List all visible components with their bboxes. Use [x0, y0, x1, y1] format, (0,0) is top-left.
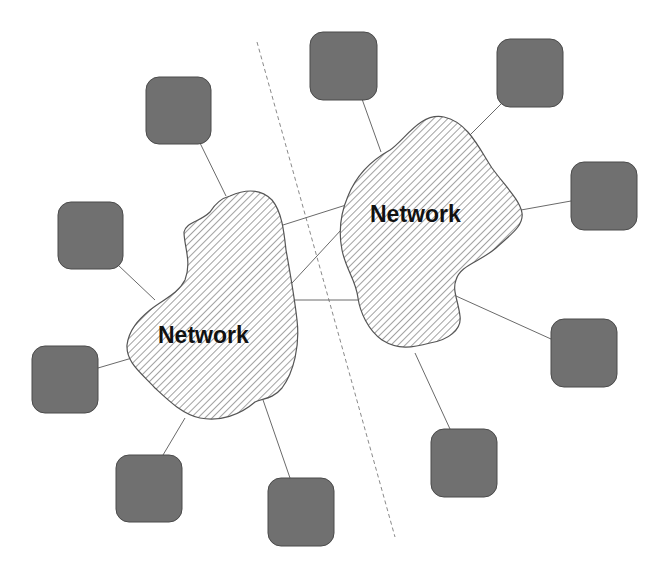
link-right-5 [415, 353, 450, 429]
link-left-2 [118, 265, 155, 300]
link-left-3 [98, 358, 132, 368]
link-right-2 [470, 104, 501, 135]
node-right-4[interactable] [551, 319, 617, 387]
link-left-5 [262, 397, 290, 478]
node-right-1[interactable] [310, 32, 377, 100]
left-network-cloud [127, 191, 298, 419]
link-left-1 [200, 143, 226, 196]
inter-link-1 [283, 205, 346, 225]
node-right-2[interactable] [497, 39, 563, 107]
node-right-3[interactable] [571, 162, 637, 230]
node-left-2[interactable] [58, 202, 123, 269]
nodes [32, 32, 637, 546]
link-right-3 [521, 201, 571, 210]
right-network-cloud [340, 116, 522, 347]
network-diagram: Network Network [0, 0, 662, 569]
right-network-label: Network [370, 201, 461, 227]
node-left-4[interactable] [116, 455, 182, 522]
left-network-label: Network [158, 322, 249, 348]
node-left-1[interactable] [146, 77, 211, 144]
links [98, 99, 571, 478]
link-right-1 [362, 99, 381, 152]
link-left-4 [163, 418, 185, 455]
node-left-5[interactable] [268, 478, 334, 546]
node-right-5[interactable] [431, 429, 497, 497]
link-right-4 [456, 296, 551, 339]
node-left-3[interactable] [32, 346, 98, 413]
inter-link-2 [292, 230, 341, 283]
